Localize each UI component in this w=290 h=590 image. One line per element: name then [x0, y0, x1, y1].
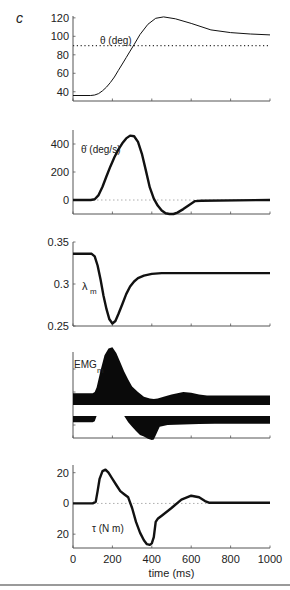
emg-agonist-band — [73, 347, 270, 405]
lambda_m-trace — [73, 254, 270, 324]
theta-dot-label: θ̇ (deg/s) — [81, 144, 120, 155]
lambda_m-y-tick-label: 0.35 — [48, 236, 69, 248]
x-tick-label: 800 — [221, 553, 239, 565]
tau-y-tick-label: 20 — [57, 528, 69, 540]
tau-y-tick-label: 0 — [63, 497, 69, 509]
theta-y-tick-label: 120 — [51, 12, 69, 24]
lambda-label: λ — [82, 280, 88, 292]
emg-subscript: m — [97, 366, 104, 375]
lambda_m-y-tick-label: 0.3 — [54, 278, 69, 290]
theta-y-tick-label: 40 — [57, 86, 69, 98]
bottom-divider — [0, 584, 290, 586]
emg-label: EMG — [74, 359, 97, 370]
figure-canvas: 40608010012002004000.250.30.3520020θ (de… — [0, 0, 290, 590]
emg-antagonist-band — [73, 416, 270, 440]
theta_dot-y-tick-label: 0 — [63, 194, 69, 206]
theta-trace — [73, 17, 270, 96]
lambda_m-y-tick-label: 0.25 — [48, 320, 69, 332]
x-tick-label: 200 — [103, 553, 121, 565]
theta-y-tick-label: 100 — [51, 30, 69, 42]
x-tick-label: 400 — [143, 553, 161, 565]
x-tick-label: 1000 — [258, 553, 282, 565]
theta-y-tick-label: 80 — [57, 49, 69, 61]
lambda-subscript: m — [90, 287, 97, 296]
x-tick-label: 600 — [182, 553, 200, 565]
tau-label: τ (N m) — [92, 523, 124, 534]
theta_dot-y-tick-label: 400 — [51, 138, 69, 150]
theta-label: θ (deg) — [100, 35, 132, 46]
theta-y-tick-label: 60 — [57, 67, 69, 79]
x-tick-label: 0 — [70, 553, 76, 565]
x-axis-label: time (ms) — [149, 567, 195, 579]
theta_dot-y-tick-label: 200 — [51, 166, 69, 178]
tau-y-tick-label: 20 — [57, 467, 69, 479]
